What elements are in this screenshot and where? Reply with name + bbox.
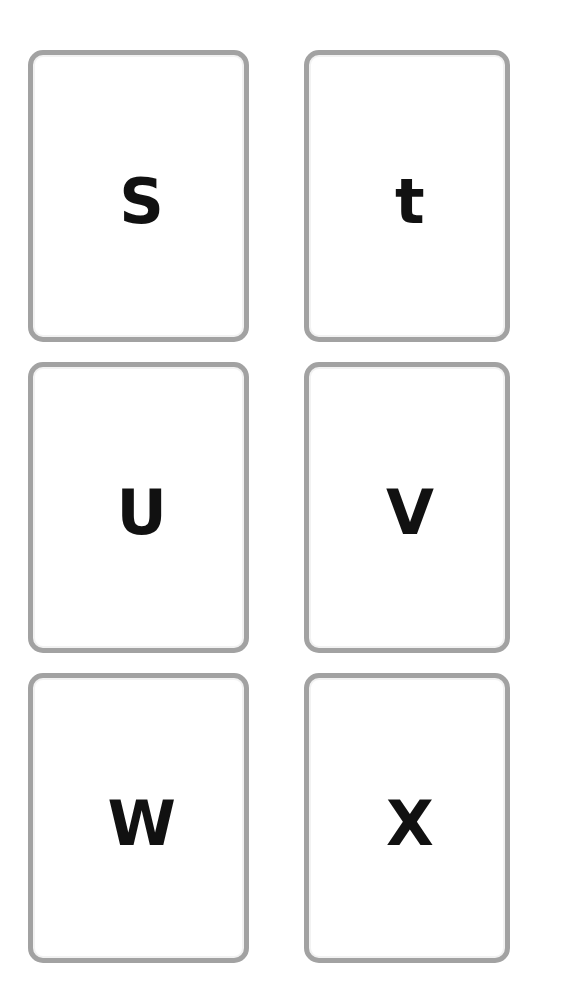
flashcard-v[interactable]: V xyxy=(304,362,510,653)
flashcard-letter: U xyxy=(33,482,244,544)
flashcard-grid: S t U V W X xyxy=(0,0,563,994)
flashcard-s[interactable]: S xyxy=(28,50,249,342)
flashcard-letter: W xyxy=(33,793,244,855)
flashcard-letter: V xyxy=(309,482,505,544)
flashcard-w[interactable]: W xyxy=(28,673,249,963)
flashcard-letter: t xyxy=(309,171,505,233)
flashcard-letter: S xyxy=(33,171,244,233)
flashcard-sheet: S t U V W X xyxy=(0,0,563,994)
flashcard-letter: X xyxy=(309,793,505,855)
flashcard-u[interactable]: U xyxy=(28,362,249,653)
flashcard-t[interactable]: t xyxy=(304,50,510,342)
flashcard-x[interactable]: X xyxy=(304,673,510,963)
